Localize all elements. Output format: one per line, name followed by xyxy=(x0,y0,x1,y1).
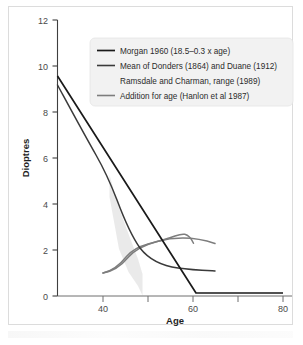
caption-strip-partial xyxy=(8,331,293,338)
x-tick-label-80: 80 xyxy=(278,304,288,314)
y-tick-label-6: 6 xyxy=(43,154,48,164)
chart-legend[interactable]: Morgan 1960 (18.5–0.3 x age) Mean of Don… xyxy=(90,38,293,106)
legend-label-addition-for-age: Addition for age (Hanlon et al 1987) xyxy=(120,92,250,101)
legend-label-morgan-1960: Morgan 1960 (18.5–0.3 x age) xyxy=(120,47,230,56)
x-axis-ticks xyxy=(103,296,283,302)
accommodation-amplitude-chart: 12 10 8 6 4 2 0 40 60 80 Age Dioptres Mo… xyxy=(0,0,303,345)
y-tick-label-2: 2 xyxy=(43,246,48,256)
y-axis-ticks xyxy=(53,20,58,296)
y-axis-title: Dioptres xyxy=(20,139,31,178)
legend-label-donders-duane: Mean of Donders (1864) and Duane (1912) xyxy=(120,62,277,71)
y-tick-label-8: 8 xyxy=(43,108,48,118)
x-tick-label-40: 40 xyxy=(98,304,108,314)
legend-label-ramsdale-charman: Ramsdale and Charman, range (1989) xyxy=(120,77,260,86)
x-axis-title: Age xyxy=(166,315,184,326)
series-line-morgan-1960 xyxy=(58,76,284,293)
x-tick-label-60: 60 xyxy=(188,304,198,314)
y-tick-label-12: 12 xyxy=(38,16,48,26)
y-tick-label-0: 0 xyxy=(43,292,48,302)
y-tick-label-10: 10 xyxy=(38,62,48,72)
y-tick-label-4: 4 xyxy=(43,200,48,210)
